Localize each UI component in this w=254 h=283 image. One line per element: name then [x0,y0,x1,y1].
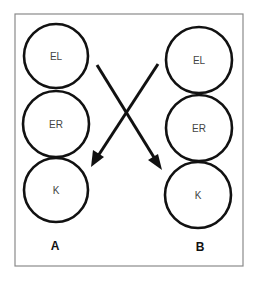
circle-label-k: K [195,190,202,201]
column-a: EL ER K A [23,24,89,253]
arrow-shaft [98,64,158,156]
circle-b-k: K [165,162,231,228]
column-b: EL ER K B [165,27,232,254]
circle-b-er: ER [166,95,232,161]
crossover-diagram: EL ER K A EL ER K B [0,0,254,283]
circle-label-el: EL [193,55,206,66]
circle-a-er: ER [23,91,89,157]
panel-label-a: A [51,239,60,253]
circle-label-el: EL [50,51,63,62]
arrow-b-el-to-a-k [91,64,158,167]
circle-label-k: K [53,185,60,196]
panel-label-b: B [196,240,205,254]
circle-label-er: ER [192,123,206,134]
arrowhead-icon [148,154,162,170]
circle-label-er: ER [49,119,63,130]
circle-b-el: EL [166,27,232,93]
arrow-a-el-to-b-k [97,65,162,170]
circle-a-el: EL [24,24,88,88]
arrowhead-icon [91,150,104,167]
circle-a-k: K [24,158,88,222]
